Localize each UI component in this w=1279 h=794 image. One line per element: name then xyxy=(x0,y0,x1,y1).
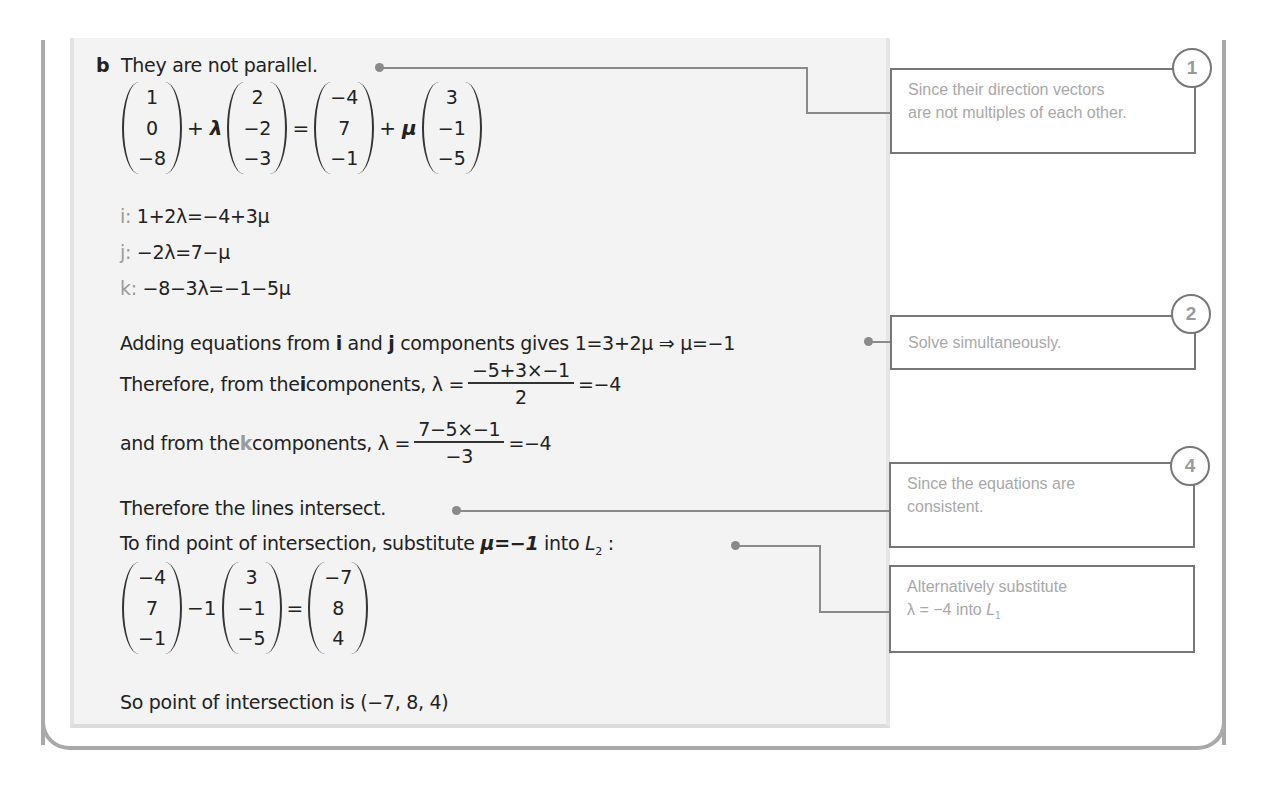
frame-right-border xyxy=(1222,40,1226,745)
equals-sign: = xyxy=(287,596,304,620)
vector-entry: −3 xyxy=(243,149,271,168)
vector-entry: −1 xyxy=(330,149,358,168)
fraction: 7−5×−1 −3 xyxy=(414,420,504,466)
coefficient: −1 xyxy=(187,596,216,620)
leader-line-alt xyxy=(819,611,892,613)
equation-text: −2λ=7−μ xyxy=(137,241,230,263)
denominator: 2 xyxy=(515,384,527,407)
vector-entry: −7 xyxy=(324,568,352,587)
leader-line-alt xyxy=(735,545,821,547)
vector-d2: 3 −1 −5 xyxy=(222,562,282,654)
vector-entry: 3 xyxy=(238,568,266,587)
conclusion-line: So point of intersection is (−7, 8, 4) xyxy=(120,693,448,712)
text-fragment: components, λ = xyxy=(306,375,464,394)
statement-text: They are not parallel. xyxy=(121,54,318,76)
plus-sign: + xyxy=(379,116,396,140)
vector-b: −4 7 −1 xyxy=(314,82,374,174)
lambda-symbol: λ xyxy=(210,116,223,140)
vector-equation: 1 0 −8 + λ 2 −2 −3 = −4 7 −1 + μ 3 −1 −5 xyxy=(120,82,484,174)
vector-entry: −1 xyxy=(438,119,466,138)
vector-entry: 0 xyxy=(138,119,166,138)
leader-line-1 xyxy=(806,67,808,113)
vector-entry: −5 xyxy=(438,149,466,168)
vector-entry: −2 xyxy=(243,119,271,138)
part-label: b xyxy=(96,54,109,76)
numerator: 7−5×−1 xyxy=(414,420,504,443)
component-equation-k: k: −8−3λ=−1−5μ xyxy=(120,279,291,298)
component-label: k xyxy=(120,277,131,299)
component-sep: : xyxy=(131,277,137,299)
note-text: Solve simultaneously. xyxy=(908,331,1178,354)
denominator: −3 xyxy=(446,443,473,466)
note-text: are not multiples of each other. xyxy=(908,101,1178,124)
step-badge-1: 1 xyxy=(1172,48,1212,88)
adding-equations-line: Adding equations from i and j components… xyxy=(120,334,735,353)
line-name: L xyxy=(585,532,595,554)
vector-entry: 2 xyxy=(243,88,271,107)
text-fragment: : xyxy=(602,532,614,554)
text-fragment: components gives 1=3+2μ ⇒ μ=−1 xyxy=(394,332,735,354)
text-fragment: components, λ = xyxy=(252,434,410,453)
note-box-1: Since their direction vectors are not mu… xyxy=(890,68,1196,154)
mu-symbol: μ xyxy=(402,116,417,140)
note-text: Alternatively substitute xyxy=(907,575,1177,598)
mu-value: μ=−1 xyxy=(480,532,538,554)
vector-d1: 2 −2 −3 xyxy=(227,82,287,174)
text-fragment: into xyxy=(538,532,585,554)
vector-entry: −1 xyxy=(138,629,166,648)
note-box-4: Since the equations are consistent. xyxy=(889,462,1195,548)
note-text: λ = −4 into L1 xyxy=(907,598,1177,624)
unit-vector-k: k xyxy=(240,434,252,453)
result: =−4 xyxy=(508,434,551,453)
note-text: Since their direction vectors xyxy=(908,78,1178,101)
component-sep: : xyxy=(125,241,131,263)
vector-b: −4 7 −1 xyxy=(122,562,182,654)
component-equation-j: j: −2λ=7−μ xyxy=(120,243,230,262)
vector-entry: −4 xyxy=(138,568,166,587)
component-sep: : xyxy=(125,205,131,227)
equation-text: 1+2λ=−4+3μ xyxy=(137,205,269,227)
lines-intersect-line: Therefore the lines intersect. xyxy=(120,499,386,518)
vector-entry: 8 xyxy=(324,599,352,618)
vector-result: −7 8 4 xyxy=(308,562,368,654)
lambda-from-i-line: Therefore, from the i components, λ = −5… xyxy=(120,356,621,412)
lambda-from-k-line: and from the k components, λ = 7−5×−1 −3… xyxy=(120,415,551,471)
solution-line-not-parallel: b They are not parallel. xyxy=(96,56,318,75)
note-text: consistent. xyxy=(907,495,1177,518)
vector-entry: 7 xyxy=(330,119,358,138)
leader-line-2 xyxy=(868,341,892,343)
vector-entry: −1 xyxy=(238,599,266,618)
fraction: −5+3×−1 2 xyxy=(468,361,574,407)
vector-d2: 3 −1 −5 xyxy=(422,82,482,174)
line-subscript: 1 xyxy=(995,610,1001,621)
vector-entry: 7 xyxy=(138,599,166,618)
substitute-line: To find point of intersection, substitut… xyxy=(120,534,614,557)
step-badge-4: 4 xyxy=(1170,446,1210,486)
text-fragment: Therefore, from the xyxy=(120,375,300,394)
leader-line-1 xyxy=(806,112,892,114)
text-fragment: Adding equations from xyxy=(120,332,336,354)
vector-a: 1 0 −8 xyxy=(122,82,182,174)
equals-sign: = xyxy=(292,116,309,140)
result: =−4 xyxy=(578,375,621,394)
vector-entry: 1 xyxy=(138,88,166,107)
leader-line-1 xyxy=(380,67,808,69)
text-fragment: and from the xyxy=(120,434,240,453)
line-name: L xyxy=(986,601,995,618)
text-fragment: and xyxy=(342,332,388,354)
line-subscript: 2 xyxy=(595,545,602,558)
plus-sign: + xyxy=(187,116,204,140)
frame-left-border xyxy=(41,40,45,745)
vector-entry: −5 xyxy=(238,629,266,648)
note-box-2: Solve simultaneously. xyxy=(890,315,1196,370)
vector-entry: 3 xyxy=(438,88,466,107)
leader-line-4 xyxy=(456,510,892,512)
leader-line-alt xyxy=(819,545,821,613)
step-badge-2: 2 xyxy=(1171,294,1211,334)
text-fragment: λ = −4 into xyxy=(907,601,986,618)
vector-entry: −8 xyxy=(138,149,166,168)
component-equation-i: i: 1+2λ=−4+3μ xyxy=(120,207,269,226)
substitution-equation: −4 7 −1 −1 3 −1 −5 = −7 8 4 xyxy=(120,562,370,654)
numerator: −5+3×−1 xyxy=(468,361,574,384)
vector-entry: −4 xyxy=(330,88,358,107)
